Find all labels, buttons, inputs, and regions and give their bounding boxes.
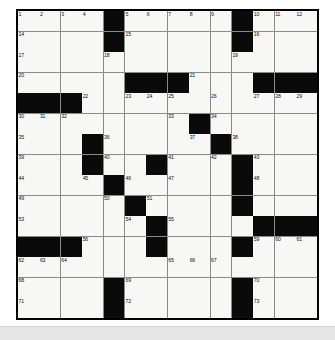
- crossword-cell[interactable]: [168, 134, 189, 154]
- crossword-cell[interactable]: [61, 196, 82, 216]
- crossword-cell[interactable]: [125, 134, 146, 154]
- crossword-cell[interactable]: [275, 52, 296, 72]
- crossword-cell[interactable]: 18: [104, 52, 125, 72]
- crossword-cell[interactable]: [211, 278, 232, 298]
- crossword-cell[interactable]: [211, 237, 232, 257]
- crossword-cell[interactable]: [61, 32, 82, 52]
- crossword-cell[interactable]: 12: [296, 11, 317, 31]
- crossword-cell[interactable]: [189, 93, 210, 113]
- crossword-cell[interactable]: [296, 175, 317, 195]
- crossword-cell[interactable]: 26: [211, 93, 232, 113]
- crossword-cell[interactable]: 31: [39, 114, 60, 134]
- crossword-cell[interactable]: 33: [168, 114, 189, 134]
- crossword-cell[interactable]: [146, 32, 167, 52]
- crossword-cell[interactable]: 38: [232, 134, 253, 154]
- crossword-cell[interactable]: [232, 257, 253, 277]
- crossword-cell[interactable]: [39, 175, 60, 195]
- crossword-cell[interactable]: [146, 175, 167, 195]
- crossword-cell[interactable]: 62: [18, 257, 39, 277]
- crossword-cell[interactable]: 21: [189, 73, 210, 93]
- crossword-cell[interactable]: [189, 298, 210, 318]
- crossword-cell[interactable]: [104, 216, 125, 236]
- crossword-cell[interactable]: 35: [18, 134, 39, 154]
- crossword-cell[interactable]: 25: [168, 93, 189, 113]
- crossword-cell[interactable]: 40: [104, 155, 125, 175]
- crossword-cell[interactable]: [253, 114, 274, 134]
- crossword-cell[interactable]: [125, 257, 146, 277]
- crossword-cell[interactable]: 27: [253, 93, 274, 113]
- crossword-cell[interactable]: [146, 278, 167, 298]
- crossword-cell[interactable]: [104, 237, 125, 257]
- crossword-cell[interactable]: 5: [125, 11, 146, 31]
- crossword-cell[interactable]: 34: [211, 114, 232, 134]
- crossword-cell[interactable]: [82, 278, 103, 298]
- crossword-cell[interactable]: 29: [296, 93, 317, 113]
- crossword-cell[interactable]: 39: [18, 155, 39, 175]
- crossword-cell[interactable]: 45: [82, 175, 103, 195]
- crossword-cell[interactable]: [168, 52, 189, 72]
- crossword-cell[interactable]: 66: [189, 257, 210, 277]
- crossword-cell[interactable]: [82, 298, 103, 318]
- crossword-cell[interactable]: [232, 114, 253, 134]
- crossword-cell[interactable]: [275, 257, 296, 277]
- crossword-cell[interactable]: 7: [168, 11, 189, 31]
- crossword-cell[interactable]: 50: [104, 196, 125, 216]
- crossword-cell[interactable]: [125, 52, 146, 72]
- crossword-cell[interactable]: [275, 32, 296, 52]
- crossword-cell[interactable]: [296, 52, 317, 72]
- crossword-cell[interactable]: [82, 257, 103, 277]
- crossword-cell[interactable]: 14: [18, 32, 39, 52]
- crossword-cell[interactable]: [275, 134, 296, 154]
- crossword-cell[interactable]: 70: [253, 278, 274, 298]
- crossword-cell[interactable]: 65: [168, 257, 189, 277]
- crossword-cell[interactable]: [39, 298, 60, 318]
- crossword-cell[interactable]: [146, 52, 167, 72]
- crossword-cell[interactable]: [296, 257, 317, 277]
- crossword-cell[interactable]: [104, 93, 125, 113]
- crossword-cell[interactable]: 19: [232, 52, 253, 72]
- crossword-cell[interactable]: [82, 196, 103, 216]
- crossword-cell[interactable]: [189, 216, 210, 236]
- crossword-cell[interactable]: [275, 196, 296, 216]
- crossword-cell[interactable]: 32: [61, 114, 82, 134]
- crossword-cell[interactable]: [146, 298, 167, 318]
- crossword-cell[interactable]: [296, 278, 317, 298]
- crossword-cell[interactable]: 54: [125, 216, 146, 236]
- crossword-cell[interactable]: 15: [125, 32, 146, 52]
- crossword-cell[interactable]: [168, 32, 189, 52]
- crossword-cell[interactable]: 73: [253, 298, 274, 318]
- crossword-cell[interactable]: [104, 257, 125, 277]
- crossword-cell[interactable]: [296, 114, 317, 134]
- crossword-cell[interactable]: 8: [189, 11, 210, 31]
- crossword-cell[interactable]: 37: [189, 134, 210, 154]
- crossword-cell[interactable]: 11: [275, 11, 296, 31]
- crossword-cell[interactable]: 41: [168, 155, 189, 175]
- crossword-cell[interactable]: 20: [18, 73, 39, 93]
- crossword-cell[interactable]: 6: [146, 11, 167, 31]
- crossword-cell[interactable]: 30: [18, 114, 39, 134]
- crossword-cell[interactable]: [82, 216, 103, 236]
- crossword-cell[interactable]: [82, 114, 103, 134]
- crossword-cell[interactable]: 36: [104, 134, 125, 154]
- crossword-cell[interactable]: [211, 52, 232, 72]
- crossword-cell[interactable]: [168, 237, 189, 257]
- crossword-cell[interactable]: 4: [82, 11, 103, 31]
- crossword-cell[interactable]: [189, 175, 210, 195]
- crossword-cell[interactable]: [168, 196, 189, 216]
- crossword-cell[interactable]: [275, 114, 296, 134]
- crossword-cell[interactable]: [211, 32, 232, 52]
- crossword-cell[interactable]: [104, 114, 125, 134]
- crossword-cell[interactable]: [189, 52, 210, 72]
- crossword-cell[interactable]: [232, 216, 253, 236]
- crossword-cell[interactable]: [253, 52, 274, 72]
- crossword-cell[interactable]: [61, 155, 82, 175]
- crossword-cell[interactable]: [211, 175, 232, 195]
- crossword-cell[interactable]: [82, 32, 103, 52]
- crossword-cell[interactable]: [39, 196, 60, 216]
- crossword-cell[interactable]: 48: [253, 175, 274, 195]
- crossword-cell[interactable]: 68: [18, 278, 39, 298]
- crossword-cell[interactable]: 60: [275, 237, 296, 257]
- crossword-cell[interactable]: [253, 196, 274, 216]
- crossword-cell[interactable]: 47: [168, 175, 189, 195]
- crossword-cell[interactable]: [275, 175, 296, 195]
